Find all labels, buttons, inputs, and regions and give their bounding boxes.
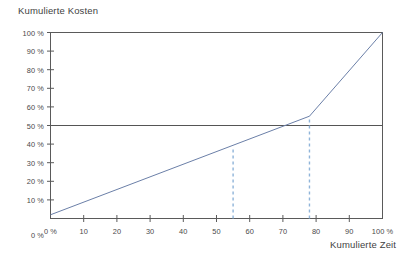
cumulative-cost-time-chart: Kumulierte Kosten Kumulierte Zeit 0 %10 …: [0, 0, 420, 258]
plot-area: [0, 0, 420, 258]
